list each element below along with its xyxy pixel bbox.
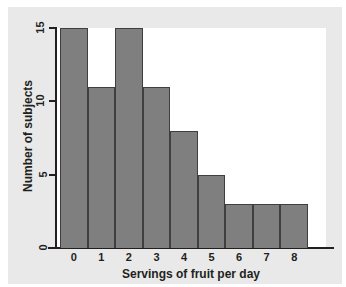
y-tick-label-text: 10 (34, 95, 45, 107)
bar-0 (60, 28, 88, 248)
x-tick-label: 0 (60, 251, 88, 264)
y-tick-label-text: 0 (37, 244, 48, 250)
bar-3 (143, 87, 171, 248)
bar-7 (253, 204, 281, 248)
bar-8 (280, 204, 308, 248)
bar-4 (170, 131, 198, 248)
bar-series (60, 28, 308, 248)
x-tick-label: 8 (280, 251, 308, 264)
bar-5 (198, 175, 226, 248)
y-tick-mark (49, 100, 56, 102)
histogram-figure: 0 5 10 15 0 1 2 3 4 5 6 7 8 Servi (0, 0, 346, 287)
x-tick-label: 3 (142, 251, 170, 264)
x-tick-label: 7 (253, 251, 281, 264)
y-tick-label: 0 (8, 242, 46, 253)
y-axis-line (55, 27, 57, 249)
x-tick-label: 1 (87, 251, 115, 264)
bar-2 (115, 28, 143, 248)
x-tick-label: 5 (198, 251, 226, 264)
y-tick-label: 15 (8, 22, 46, 33)
x-tick-label: 6 (225, 251, 253, 264)
y-tick-mark (49, 174, 56, 176)
x-tick-label: 4 (170, 251, 198, 264)
x-axis-title: Servings of fruit per day (48, 267, 334, 281)
y-tick-label-text: 15 (34, 21, 45, 33)
y-axis-title: Number of subjects (21, 36, 35, 236)
figure-panel: 0 5 10 15 0 1 2 3 4 5 6 7 8 Servi (8, 7, 342, 284)
bar-1 (88, 87, 116, 248)
y-tick-label-text: 5 (37, 171, 48, 177)
bar-6 (225, 204, 253, 248)
x-tick-label: 2 (115, 251, 143, 264)
y-tick-mark (49, 247, 56, 249)
y-tick-mark (49, 27, 56, 29)
